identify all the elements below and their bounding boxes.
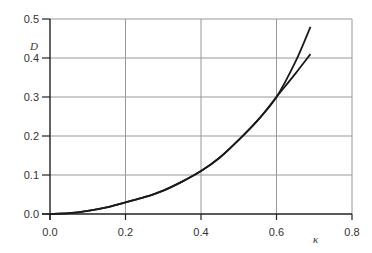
x-tick-label: 0.4 [193,226,208,238]
y-tick-label: 0.3 [24,91,39,103]
grid-lines [50,19,352,214]
y-tick-label: 0.0 [24,208,39,220]
y-tick-label: 0.4 [24,52,39,64]
y-tick-label: 0.1 [24,169,39,181]
x-tick-label: 0.0 [42,226,57,238]
series-line-curve-lower [50,54,310,214]
x-tick-label: 0.2 [118,226,133,238]
y-tick-label: 0.5 [24,13,39,25]
x-tick-label: 0.8 [344,226,359,238]
x-tick-label: 0.6 [269,226,284,238]
series-line-curve-upper [50,27,310,214]
tick-labels: 0.00.20.40.60.80.00.10.20.30.40.5 [24,13,360,238]
y-axis-label: D [29,40,38,52]
y-tick-label: 0.2 [24,130,39,142]
chart: 0.00.20.40.60.80.00.10.20.30.40.5 D κ [0,0,372,253]
axes [42,19,352,220]
data-series [50,27,310,214]
x-axis-label: κ [313,233,319,245]
